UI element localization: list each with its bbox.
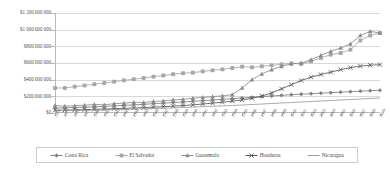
data-point-square bbox=[142, 76, 146, 80]
legend-label: Guatemala bbox=[195, 152, 218, 158]
data-point-square bbox=[368, 34, 372, 38]
legend-item-guatemala[interactable]: Guatemala bbox=[181, 152, 219, 159]
data-point-diamond bbox=[329, 90, 333, 94]
data-point-square bbox=[240, 65, 244, 69]
data-point-square bbox=[201, 69, 205, 73]
data-point-square bbox=[102, 81, 106, 85]
legend-label: El Salvador bbox=[129, 152, 154, 158]
data-point-diamond bbox=[299, 92, 303, 96]
data-point-square bbox=[63, 86, 67, 90]
data-point-square bbox=[92, 82, 96, 86]
data-point-square bbox=[191, 71, 195, 75]
data-point-triangle bbox=[368, 29, 372, 33]
x-axis-tick-label: 2009 bbox=[379, 108, 387, 118]
x-axis-tick-label: 1988 bbox=[172, 108, 180, 118]
data-point-diamond bbox=[309, 91, 313, 95]
legend-marker-square-icon bbox=[115, 152, 128, 159]
data-point-diamond bbox=[280, 93, 284, 97]
data-point-diamond bbox=[378, 88, 382, 92]
data-point-square bbox=[329, 53, 333, 57]
y-axis-tick-label: $200 000 000 bbox=[24, 94, 51, 99]
series-line bbox=[55, 31, 380, 106]
x-axis-tick-label: 2001 bbox=[300, 108, 308, 118]
y-axis-tick-label: $600 000 000 bbox=[24, 60, 51, 65]
x-axis-tick-label: 2008 bbox=[369, 108, 377, 118]
y-axis-tick-label: $1 000 000 000 bbox=[20, 27, 51, 32]
data-point-square bbox=[349, 48, 353, 52]
data-point-square bbox=[161, 74, 165, 78]
data-point-square bbox=[339, 51, 343, 55]
legend-marker-diamond-icon bbox=[50, 152, 63, 159]
data-point-square bbox=[260, 64, 264, 68]
x-axis-tick-label: 1982 bbox=[113, 108, 121, 118]
chart-legend: Costa RicaEl SalvadorGuatemalaHondurasNi… bbox=[36, 147, 358, 163]
data-point-square bbox=[83, 84, 87, 88]
series-guatemala bbox=[53, 29, 382, 108]
data-point-square bbox=[270, 63, 274, 67]
data-point-x bbox=[299, 78, 303, 82]
data-point-diamond bbox=[348, 89, 352, 93]
data-point-diamond bbox=[368, 88, 372, 92]
legend-marker-none-icon bbox=[307, 152, 320, 159]
legend-item-el-salvador[interactable]: El Salvador bbox=[115, 152, 155, 159]
line-chart: $1 200 000 000$1 000 000 000$800 000 000… bbox=[0, 0, 390, 169]
data-point-square bbox=[152, 75, 156, 79]
data-point-square bbox=[230, 66, 234, 70]
x-axis-tick-label: 1994 bbox=[231, 108, 239, 118]
legend-label: Nicaragua bbox=[322, 152, 344, 158]
data-point-square bbox=[358, 39, 362, 43]
data-point-square bbox=[250, 65, 254, 69]
data-point-triangle bbox=[230, 92, 234, 96]
data-point-diamond bbox=[339, 90, 343, 94]
legend-item-costa-rica[interactable]: Costa Rica bbox=[50, 152, 88, 159]
x-axis-tick-label: 2002 bbox=[310, 108, 318, 118]
data-point-square bbox=[171, 72, 175, 76]
data-point-diamond bbox=[319, 91, 323, 95]
data-point-square bbox=[122, 78, 126, 82]
legend-label: Costa Rica bbox=[65, 152, 89, 158]
y-axis-tick-label: $800 000 000 bbox=[24, 44, 51, 49]
y-axis-labels: $1 200 000 000$1 000 000 000$800 000 000… bbox=[0, 0, 53, 126]
series-layer bbox=[55, 13, 380, 113]
data-point-square bbox=[112, 80, 116, 84]
legend-item-honduras[interactable]: Honduras bbox=[245, 152, 280, 159]
x-axis-labels: 1976197719781979198019811982198319841985… bbox=[0, 116, 390, 146]
legend-item-nicaragua[interactable]: Nicaragua bbox=[307, 152, 344, 159]
data-point-square bbox=[221, 67, 225, 71]
x-axis-tick-label: 1981 bbox=[103, 108, 111, 118]
data-point-square bbox=[119, 153, 123, 157]
series-el-salvador bbox=[53, 31, 382, 90]
data-point-diamond bbox=[289, 92, 293, 96]
x-axis-tick-label: 1976 bbox=[54, 108, 62, 118]
x-axis-tick-label: 1995 bbox=[241, 108, 249, 118]
data-point-square bbox=[132, 77, 136, 81]
legend-label: Honduras bbox=[260, 152, 281, 158]
series-line bbox=[55, 33, 380, 88]
x-axis-tick-label: 1989 bbox=[182, 108, 190, 118]
data-point-square bbox=[211, 68, 215, 72]
data-point-diamond bbox=[358, 89, 362, 93]
legend-marker-triangle-icon bbox=[181, 152, 194, 159]
data-point-x bbox=[279, 87, 283, 91]
legend-marker-x-icon bbox=[245, 152, 258, 159]
data-point-triangle bbox=[250, 77, 254, 81]
data-point-x bbox=[289, 83, 293, 87]
data-point-square bbox=[181, 71, 185, 75]
data-point-square bbox=[73, 85, 77, 89]
y-axis-tick-label: $1 200 000 000 bbox=[20, 10, 51, 15]
y-axis-tick-label: $400 000 000 bbox=[24, 77, 51, 82]
data-point-square bbox=[53, 86, 57, 90]
data-point-diamond bbox=[55, 153, 59, 157]
